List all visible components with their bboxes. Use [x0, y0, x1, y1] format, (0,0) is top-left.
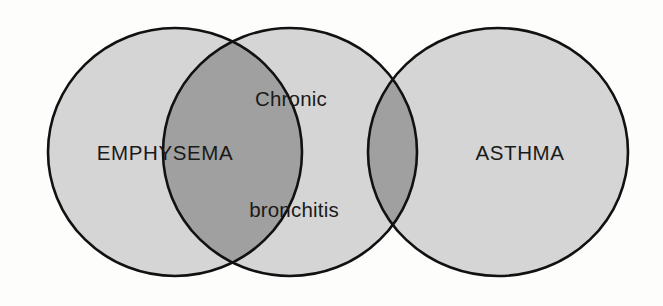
label-chronic: Chronic	[255, 87, 327, 110]
venn-diagram: EMPHYSEMA Chronic bronchitis ASTHMA	[0, 0, 663, 306]
venn-diagram-canvas: EMPHYSEMA Chronic bronchitis ASTHMA	[0, 0, 663, 306]
label-bronchitis: bronchitis	[249, 198, 339, 221]
label-emphysema: EMPHYSEMA	[97, 141, 233, 164]
label-asthma: ASTHMA	[475, 141, 564, 164]
